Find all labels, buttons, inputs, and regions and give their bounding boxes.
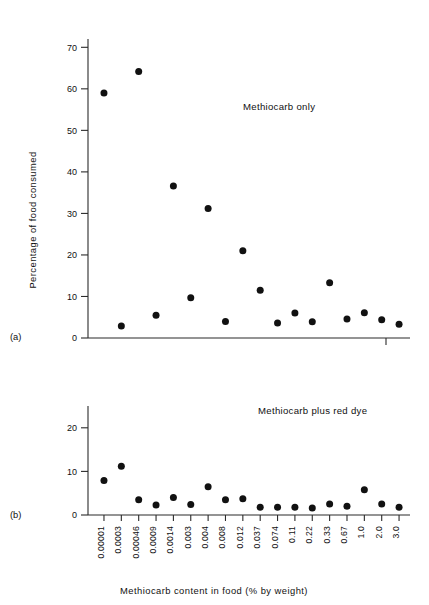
x-axis-title: Methiocarb content in food (% by weight) <box>120 585 308 596</box>
data-point <box>170 494 177 501</box>
data-point <box>274 504 281 511</box>
x-tick-label: 0.037 <box>252 526 262 549</box>
data-point <box>118 322 125 329</box>
data-point <box>239 495 246 502</box>
data-point <box>205 483 212 490</box>
x-tick-label: 0.004 <box>200 526 210 549</box>
panel-a-y-tick-label: 0 <box>72 333 77 343</box>
data-point <box>135 496 142 503</box>
x-tick-label: 0.11 <box>287 526 297 543</box>
x-tick-label: 0.012 <box>235 526 245 549</box>
data-point <box>396 504 403 511</box>
x-tick-label: 0.008 <box>217 526 227 549</box>
x-tick-label: 0.003 <box>183 526 193 549</box>
data-point <box>187 294 194 301</box>
data-point <box>309 318 316 325</box>
panel-b-title: Methiocarb plus red dye <box>258 405 367 416</box>
x-tick-label: 0.67 <box>339 526 349 544</box>
data-point <box>239 247 246 254</box>
figure-background <box>0 0 429 605</box>
data-point <box>378 316 385 323</box>
figure-container: 010203040506070 Methiocarb only (a) 0102… <box>0 0 429 605</box>
panel-a-title: Methiocarb only <box>243 101 315 112</box>
data-point <box>205 205 212 212</box>
data-point <box>257 287 264 294</box>
panel-a-y-tick-label: 20 <box>67 250 77 260</box>
data-point <box>343 503 350 510</box>
data-point <box>222 318 229 325</box>
data-point <box>343 315 350 322</box>
y-axis-title: Percentage of food consumed <box>27 151 38 288</box>
data-point <box>309 505 316 512</box>
data-point <box>396 321 403 328</box>
panel-a-y-tick-label: 10 <box>67 292 77 302</box>
x-tick-label: 0.00001 <box>96 526 106 558</box>
data-point <box>153 501 160 508</box>
data-point <box>135 68 142 75</box>
x-tick-label: 0.22 <box>304 526 314 544</box>
x-tick-label: 2.0 <box>374 526 384 539</box>
panel-a-y-tick-label: 60 <box>67 84 77 94</box>
data-point <box>222 496 229 503</box>
x-tick-label: 1.0 <box>356 526 366 539</box>
x-tick-label: 0.0009 <box>148 526 158 554</box>
panel-b-y-tick-label: 0 <box>72 510 77 520</box>
data-point <box>170 183 177 190</box>
data-point <box>378 501 385 508</box>
data-point <box>100 477 107 484</box>
data-point <box>361 486 368 493</box>
data-point <box>326 279 333 286</box>
panel-a-y-tick-label: 40 <box>67 167 77 177</box>
data-point <box>291 504 298 511</box>
x-tick-label: 0.074 <box>270 526 280 549</box>
panel-a-y-tick-label: 70 <box>67 43 77 53</box>
panel-b-y-tick-label: 10 <box>67 467 77 477</box>
scatter-figure: 010203040506070 Methiocarb only (a) 0102… <box>0 0 429 605</box>
data-point <box>153 312 160 319</box>
panel-a-y-tick-label: 30 <box>67 209 77 219</box>
panel-b-letter: (b) <box>10 509 21 520</box>
x-tick-label: 3.0 <box>391 526 401 539</box>
data-point <box>361 309 368 316</box>
panel-a-letter: (a) <box>10 331 21 342</box>
x-tick-label: 0.33 <box>322 526 332 544</box>
x-tick-label: 0.00046 <box>131 526 141 558</box>
data-point <box>291 310 298 317</box>
x-tick-label: 0.0014 <box>165 526 175 554</box>
data-point <box>187 501 194 508</box>
panel-b-y-tick-label: 20 <box>67 423 77 433</box>
data-point <box>257 504 264 511</box>
data-point <box>100 89 107 96</box>
data-point <box>118 463 125 470</box>
x-tick-label: 0.0003 <box>113 526 123 554</box>
data-point <box>274 320 281 327</box>
panel-a-y-tick-label: 50 <box>67 126 77 136</box>
data-point <box>326 501 333 508</box>
